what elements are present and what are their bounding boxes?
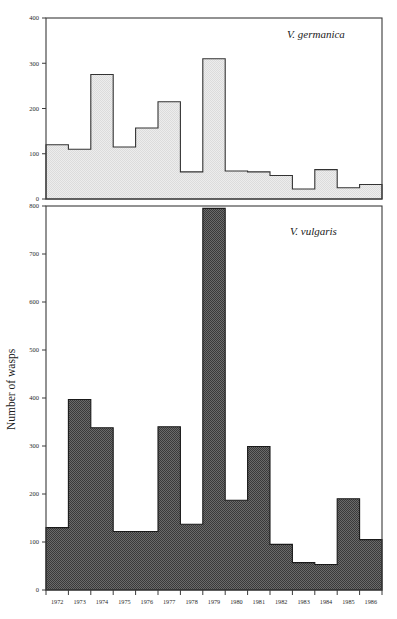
germanica-bar-1977 <box>158 102 180 199</box>
germanica-species-label: V. germanica <box>287 28 345 40</box>
xtick-label-1983: 1983 <box>297 598 309 605</box>
xtick-label-1974: 1974 <box>96 598 108 605</box>
xtick-label-1986: 1986 <box>365 598 377 605</box>
vulgaris-bar-1981 <box>248 446 270 590</box>
germanica-bar-1983 <box>292 189 314 199</box>
vulgaris-ytick-label: 600 <box>29 298 39 305</box>
xtick-label-1980: 1980 <box>230 598 242 605</box>
vulgaris-ytick-label: 700 <box>29 250 39 257</box>
germanica-ytick-label: 400 <box>29 14 39 21</box>
xtick-label-1979: 1979 <box>208 598 220 605</box>
vulgaris-bar-1972 <box>46 528 68 590</box>
vulgaris-ytick-label: 100 <box>29 538 39 545</box>
vulgaris-bar-1979 <box>203 208 225 590</box>
y-axis-title: Number of wasps <box>5 348 18 430</box>
xtick-label-1976: 1976 <box>141 598 153 605</box>
vulgaris-ytick-label: 0 <box>36 586 39 593</box>
xtick-label-1984: 1984 <box>320 598 332 605</box>
xtick-label-1975: 1975 <box>118 598 130 605</box>
vulgaris-bar-1985 <box>337 499 359 590</box>
germanica-bar-1985 <box>337 188 359 199</box>
vulgaris-ytick-label: 800 <box>29 202 39 209</box>
xtick-label-1977: 1977 <box>163 598 175 605</box>
vulgaris-bar-1976 <box>136 531 158 590</box>
germanica-bar-1979 <box>203 59 225 199</box>
germanica-ytick-label: 0 <box>36 195 39 202</box>
germanica-bar-1982 <box>270 175 292 199</box>
germanica-bar-1980 <box>225 171 247 199</box>
germanica-bar-1973 <box>68 149 90 199</box>
vulgaris-bar-1982 <box>270 544 292 590</box>
germanica-bar-1981 <box>248 172 270 199</box>
xtick-label-1978: 1978 <box>185 598 197 605</box>
vulgaris-bar-1980 <box>225 500 247 590</box>
vulgaris-bar-1984 <box>315 565 337 590</box>
xtick-label-1981: 1981 <box>253 598 265 605</box>
xtick-label-1982: 1982 <box>275 598 287 605</box>
vulgaris-bar-1975 <box>113 531 135 590</box>
vulgaris-bar-1983 <box>292 563 314 590</box>
figure-canvas: 0100200300400 V. germanica 0100200300400… <box>0 0 397 619</box>
vulgaris-bar-1978 <box>180 524 202 590</box>
germanica-bar-1972 <box>46 145 68 199</box>
wasp-abundance-figure: 0100200300400 V. germanica 0100200300400… <box>0 0 397 619</box>
germanica-ytick-label: 100 <box>29 150 39 157</box>
xtick-label-1985: 1985 <box>342 598 354 605</box>
germanica-bar-1975 <box>113 147 135 199</box>
germanica-bar-1978 <box>180 172 202 199</box>
vulgaris-bar-1977 <box>158 427 180 590</box>
xtick-label-1973: 1973 <box>73 598 85 605</box>
germanica-bar-1986 <box>360 185 382 199</box>
vulgaris-bar-1973 <box>68 399 90 590</box>
vulgaris-bar-1986 <box>360 540 382 590</box>
vulgaris-ytick-label: 200 <box>29 490 39 497</box>
germanica-ytick-label: 300 <box>29 60 39 67</box>
xtick-label-1972: 1972 <box>51 598 63 605</box>
vulgaris-species-label: V. vulgaris <box>290 225 337 237</box>
vulgaris-bar-1974 <box>91 428 113 590</box>
vulgaris-ytick-label: 300 <box>29 442 39 449</box>
germanica-bar-1974 <box>91 75 113 199</box>
vulgaris-ytick-label: 400 <box>29 394 39 401</box>
germanica-ytick-label: 200 <box>29 105 39 112</box>
germanica-bar-1976 <box>136 128 158 199</box>
vulgaris-ytick-label: 500 <box>29 346 39 353</box>
germanica-bar-1984 <box>315 170 337 199</box>
